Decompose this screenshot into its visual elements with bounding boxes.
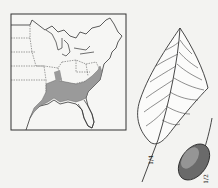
range-map: [11, 14, 126, 130]
leaf-scale-label: 1/4: [148, 155, 154, 165]
fruit-drawing: [172, 118, 216, 186]
fruit-scale-label: 1/2: [203, 174, 209, 184]
botanical-figure: [0, 0, 218, 188]
